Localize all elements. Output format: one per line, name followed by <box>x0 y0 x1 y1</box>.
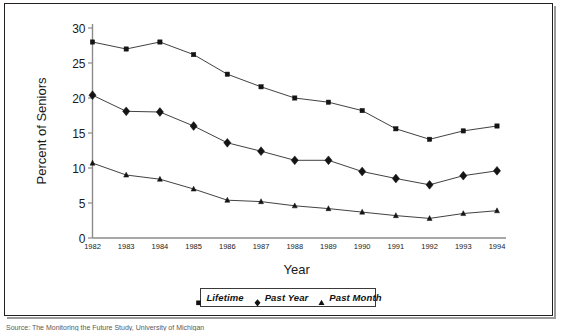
data-point-marker <box>259 85 263 89</box>
x-tick-label: 1994 <box>489 242 506 251</box>
y-tick-label: 20 <box>72 92 86 106</box>
figure-container: 0510152025301982198319841985198619871988… <box>0 0 562 331</box>
data-point-marker <box>224 138 231 147</box>
data-point-marker <box>90 40 94 44</box>
data-point-marker <box>427 137 431 141</box>
legend-entry-past-month[interactable]: Past Month <box>317 292 381 303</box>
legend-label: Lifetime <box>206 292 243 303</box>
data-point-marker <box>493 166 500 175</box>
legend-label: Past Year <box>265 292 309 303</box>
x-tick-label: 1984 <box>152 242 169 251</box>
data-point-marker <box>326 100 330 104</box>
series-past-year <box>89 91 501 189</box>
legend-entry-past-year[interactable]: Past Year <box>253 292 309 303</box>
x-tick-label: 1986 <box>219 242 236 251</box>
data-point-marker <box>158 40 162 44</box>
data-point-marker <box>460 171 467 180</box>
x-tick-label: 1992 <box>421 242 438 251</box>
x-axis-title: Year <box>284 262 311 277</box>
triangle-marker-icon <box>317 293 326 302</box>
y-tick-label: 15 <box>72 127 86 141</box>
legend-entry-lifetime[interactable]: Lifetime <box>194 292 243 303</box>
data-point-marker <box>325 156 332 165</box>
y-axis-title: Percent of Seniors <box>34 77 49 184</box>
data-point-marker <box>359 167 366 176</box>
y-tick-label: 10 <box>72 162 86 176</box>
y-tick-label: 5 <box>79 197 86 211</box>
plot-area: 0510152025301982198319841985198619871988… <box>0 0 562 331</box>
x-tick-label: 1989 <box>320 242 337 251</box>
x-tick-label: 1993 <box>455 242 472 251</box>
data-point-marker <box>190 122 197 131</box>
data-point-marker <box>461 129 465 133</box>
square-marker-icon <box>194 293 203 302</box>
data-point-marker <box>426 180 433 189</box>
data-point-marker <box>191 52 195 56</box>
data-point-marker <box>156 108 163 117</box>
x-tick-label: 1990 <box>354 242 371 251</box>
caption-text: Source: The Monitoring the Future Study,… <box>6 324 436 331</box>
data-point-marker <box>495 208 500 213</box>
legend-label: Past Month <box>329 292 381 303</box>
data-point-marker <box>90 160 95 165</box>
line-chart: 0510152025301982198319841985198619871988… <box>0 0 562 331</box>
y-tick-label: 30 <box>72 22 86 36</box>
x-tick-label: 1985 <box>185 242 202 251</box>
y-tick-label: 25 <box>72 57 86 71</box>
x-tick-label: 1987 <box>253 242 270 251</box>
data-point-marker <box>124 47 128 51</box>
series-line <box>93 163 498 218</box>
x-tick-label: 1982 <box>84 242 101 251</box>
x-tick-label: 1983 <box>118 242 135 251</box>
series-line <box>93 95 498 185</box>
diamond-marker-icon <box>253 293 262 302</box>
data-point-marker <box>495 124 499 128</box>
series-line <box>93 42 498 139</box>
data-point-marker <box>392 174 399 183</box>
data-point-marker <box>293 96 297 100</box>
series-past-month <box>90 160 500 220</box>
data-point-marker <box>360 108 364 112</box>
data-point-marker <box>257 147 264 156</box>
data-point-marker <box>291 156 298 165</box>
x-tick-label: 1991 <box>388 242 405 251</box>
x-tick-label: 1988 <box>286 242 303 251</box>
figure-caption: Source: The Monitoring the Future Study,… <box>6 324 436 331</box>
chart-legend: LifetimePast YearPast Month <box>200 288 376 307</box>
data-point-marker <box>225 72 229 76</box>
data-point-marker <box>123 107 130 116</box>
data-point-marker <box>394 127 398 131</box>
series-lifetime <box>90 40 499 142</box>
